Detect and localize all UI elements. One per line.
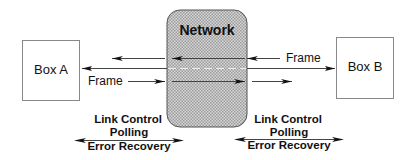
box-b: Box B	[337, 38, 394, 99]
link-left-line1: Link Control	[94, 113, 162, 125]
box-a-label: Box A	[34, 62, 68, 77]
box-b-label: Box B	[348, 59, 383, 74]
link-control-right: Link Control Polling Error Recovery	[234, 113, 344, 151]
link-left-line3: Error Recovery	[87, 140, 171, 152]
link-right-line2: Polling	[270, 126, 308, 138]
box-a: Box A	[23, 41, 80, 101]
network-node: Network	[167, 10, 247, 127]
link-right-line1: Link Control	[254, 113, 322, 125]
frame-label-a: Frame	[88, 74, 123, 88]
link-right-line3: Error Recovery	[247, 139, 331, 151]
frame-label-b: Frame	[286, 51, 321, 65]
link-left-line2: Polling	[110, 126, 148, 138]
network-label: Network	[179, 22, 234, 38]
network-diagram: Network Box A Box B Frame Frame Link Con…	[0, 0, 412, 160]
